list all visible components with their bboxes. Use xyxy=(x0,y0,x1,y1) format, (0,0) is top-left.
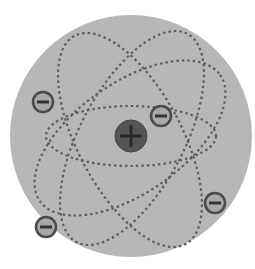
atom-diagram xyxy=(0,0,255,269)
electron xyxy=(36,217,56,237)
electron xyxy=(151,106,171,126)
electron xyxy=(33,92,53,112)
nucleus xyxy=(115,120,147,152)
electron xyxy=(205,193,225,213)
